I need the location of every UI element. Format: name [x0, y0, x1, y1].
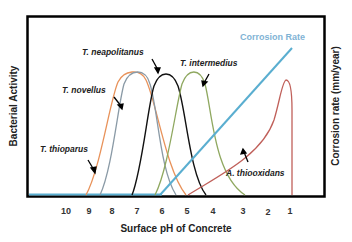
svg-text:5: 5 — [184, 206, 189, 216]
svg-text:4: 4 — [210, 206, 215, 216]
label-t-novellus: T. novellus — [62, 85, 106, 95]
svg-text:1: 1 — [287, 206, 292, 216]
x-axis-ticks: 10 9 8 7 6 5 4 3 2 1 — [61, 206, 293, 217]
svg-text:3: 3 — [240, 206, 245, 216]
legend-corrosion-rate: Corrosion Rate — [240, 32, 305, 42]
label-t-intermedius: T. intermedius — [180, 58, 238, 68]
label-a-thiooxidans: A. thiooxidans — [225, 168, 285, 178]
svg-text:2: 2 — [265, 207, 270, 217]
y-axis-title-right: Corrosion rate (mm/year) — [330, 46, 341, 165]
label-t-thioparus: T. thioparus — [40, 144, 88, 154]
x-axis-title: Surface pH of Concrete — [120, 223, 232, 234]
svg-text:9: 9 — [86, 206, 91, 216]
label-t-neapolitanus: T. neapolitanus — [82, 47, 144, 57]
bacterial-activity-chart: T. neapolitanus T. novellus T. intermedi… — [0, 0, 352, 242]
y-axis-title-left: Bacterial Activity — [8, 65, 19, 146]
svg-text:8: 8 — [109, 206, 114, 216]
svg-text:6: 6 — [159, 206, 164, 216]
svg-text:10: 10 — [61, 206, 71, 216]
svg-text:7: 7 — [134, 206, 139, 216]
